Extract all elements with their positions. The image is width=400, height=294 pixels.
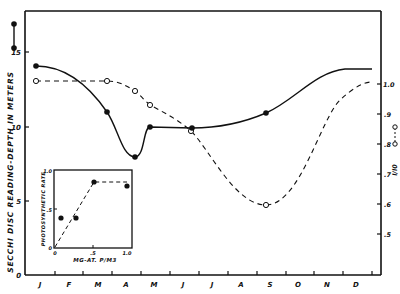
x-axis: J F M A M J J A S O N D — [37, 271, 372, 289]
month-label: S — [267, 281, 272, 289]
inset-chart: 1.0 .5 0 0 .5 1.0 MG-AT. P/M3 PHOTOSYNTH… — [40, 168, 132, 263]
inset-xtick-1.0: 1.0 — [123, 250, 132, 256]
chart: 15 10 5 0 SECCHI DISC READING-DEPTH IN M… — [0, 0, 400, 294]
right-tick-.8: .8 — [384, 141, 391, 149]
right-axis-label: I/I0 — [391, 164, 399, 176]
legend-dashed-open: I/I0 — [391, 125, 399, 176]
left-tick-5: 5 — [16, 198, 21, 206]
right-axis: 1.0 .9 .8 .7 .6 .5 — [377, 81, 395, 239]
month-label: M — [151, 281, 158, 289]
inset-xtick-.5: .5 — [90, 250, 96, 256]
inset-ylabel: PHOTOSYNTHETIC RATE — [40, 172, 46, 247]
month-label: J — [37, 281, 42, 289]
inset-ytick-.5: .5 — [47, 207, 53, 213]
month-label: F — [67, 281, 72, 289]
left-tick-0: 0 — [16, 272, 21, 280]
series-solid-secchi — [33, 63, 372, 160]
month-label: D — [353, 281, 359, 289]
right-tick-.5: .5 — [384, 231, 391, 239]
month-label: N — [324, 281, 330, 289]
legend-solid-filled — [11, 21, 17, 51]
right-tick-.9: .9 — [384, 111, 391, 119]
inset-xtick-0: 0 — [53, 250, 57, 256]
inset-xlabel: MG-AT. P/M3 — [73, 257, 117, 263]
month-label: O — [295, 281, 301, 289]
month-label: A — [237, 281, 243, 289]
inset-ytick-0: 0 — [49, 245, 53, 251]
left-axis-label: SECCHI DISC READING-DEPTH IN METERS — [6, 71, 15, 273]
month-label: A — [122, 281, 128, 289]
month-label: J — [180, 281, 185, 289]
month-label: M — [95, 281, 102, 289]
month-label: J — [209, 281, 214, 289]
right-tick-.6: .6 — [384, 201, 391, 209]
right-tick-1.0: 1.0 — [383, 81, 395, 89]
